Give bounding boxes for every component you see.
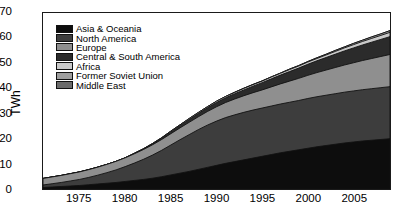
- legend-item-label: Asia & Oceania: [76, 24, 141, 33]
- legend-swatch-icon: [56, 43, 73, 51]
- y-tick-label-70: 70: [0, 6, 12, 18]
- legend-swatch-icon: [56, 81, 73, 89]
- x-tick-label-1995: 1995: [250, 193, 276, 205]
- chart-figure: TWh 010203040506070 19751980198519901995…: [0, 0, 407, 222]
- x-tick-label-1990: 1990: [204, 193, 230, 205]
- legend-swatch-icon: [56, 25, 73, 33]
- legend-swatch-icon: [56, 34, 73, 42]
- legend-swatch-icon: [56, 72, 73, 80]
- legend-item-label: Central & South America: [76, 52, 180, 61]
- y-tick-label-10: 10: [0, 159, 12, 171]
- legend-item: Central & South America: [56, 52, 180, 61]
- y-tick-label-40: 40: [0, 83, 12, 95]
- y-tick-label-20: 20: [0, 133, 12, 145]
- chart-legend: Asia & OceaniaNorth AmericaEuropeCentral…: [56, 24, 180, 90]
- y-tick-label-30: 30: [0, 108, 12, 120]
- legend-item-label: Former Soviet Union: [76, 71, 163, 80]
- y-tick-label-60: 60: [0, 32, 12, 44]
- legend-item-label: Middle East: [76, 81, 126, 90]
- legend-swatch-icon: [56, 62, 73, 70]
- x-tick-label-2005: 2005: [341, 193, 367, 205]
- y-tick-label-0: 0: [0, 184, 12, 196]
- y-tick-label-50: 50: [0, 57, 12, 69]
- legend-swatch-icon: [56, 53, 73, 61]
- legend-item: Asia & Oceania: [56, 24, 180, 33]
- x-tick-label-1985: 1985: [158, 193, 184, 205]
- x-tick-label-1980: 1980: [112, 193, 138, 205]
- legend-item: Middle East: [56, 80, 180, 89]
- x-tick-label-2000: 2000: [296, 193, 322, 205]
- legend-item: Former Soviet Union: [56, 71, 180, 80]
- x-tick-label-1975: 1975: [66, 193, 92, 205]
- legend-item: North America: [56, 33, 180, 42]
